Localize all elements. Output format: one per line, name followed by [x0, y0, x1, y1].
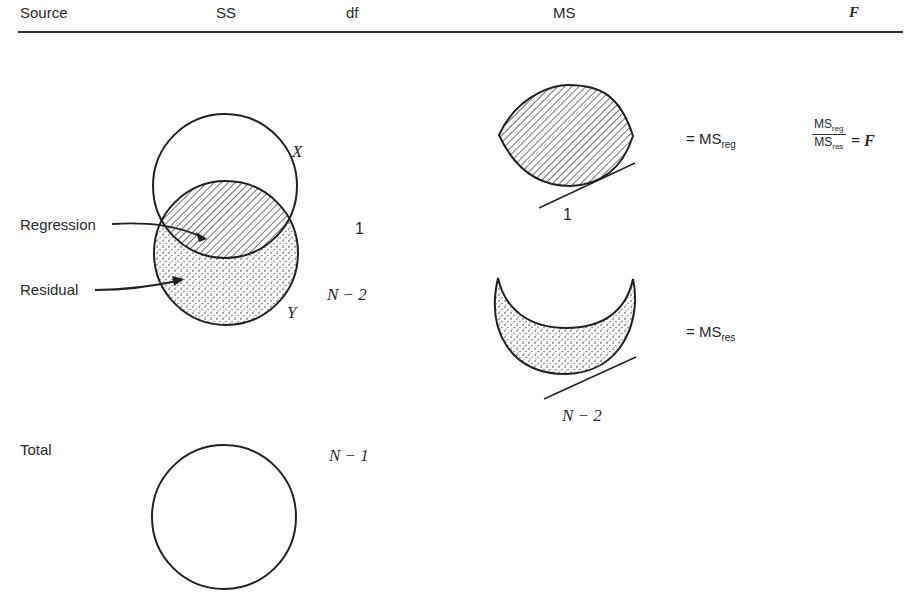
row-label-total: Total — [20, 441, 52, 458]
ms-res-crescent — [495, 278, 635, 374]
ms-reg-divisor: 1 — [563, 206, 572, 224]
df-residual: N − 2 — [327, 285, 367, 305]
f-ratio-result: = F — [851, 132, 875, 150]
df-total: N − 1 — [329, 446, 369, 466]
row-label-residual: Residual — [20, 281, 78, 298]
ms-res-equation: = MSres — [686, 323, 735, 343]
ms-reg-lens — [499, 85, 633, 186]
anova-venn-diagram — [0, 0, 908, 603]
df-regression: 1 — [355, 220, 364, 238]
row-label-regression: Regression — [20, 216, 96, 233]
total-circle — [152, 445, 296, 589]
ms-res-divisor: N − 2 — [562, 406, 602, 426]
f-numerator: MSreg — [812, 117, 846, 135]
x-label: X — [292, 142, 302, 162]
f-denominator: MSres — [812, 135, 846, 151]
f-ratio-fraction: MSreg MSres — [812, 117, 846, 151]
ms-reg-equation: = MSreg — [686, 130, 736, 150]
y-label: Y — [287, 303, 296, 323]
